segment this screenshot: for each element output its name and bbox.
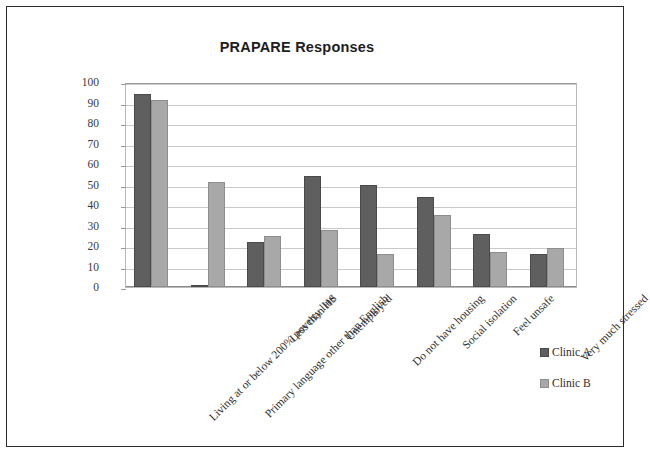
bar-group <box>530 84 564 287</box>
y-axis-tick-label: 50 <box>39 180 99 192</box>
bars-layer <box>126 84 576 287</box>
y-axis-tick-label: 90 <box>39 98 99 110</box>
y-axis-tick-label: 80 <box>39 118 99 130</box>
bar-group <box>360 84 394 287</box>
plot-area <box>125 83 577 288</box>
legend-swatch-icon <box>540 348 549 357</box>
bar-clinic-a <box>304 176 321 287</box>
bar-group <box>191 84 225 287</box>
bar-group <box>473 84 507 287</box>
bar-group <box>134 84 168 287</box>
bar-clinic-a <box>360 185 377 288</box>
y-axis-tick-label: 30 <box>39 221 99 233</box>
y-axis-tick-label: 60 <box>39 159 99 171</box>
legend-label: Clinic A <box>552 347 591 359</box>
y-axis-tick-label: 100 <box>39 77 99 89</box>
bar-clinic-b <box>547 248 564 287</box>
y-axis-tick-label: 40 <box>39 200 99 212</box>
bar-group <box>247 84 281 287</box>
x-axis-category-label: Unemployed <box>343 292 393 342</box>
bar-clinic-a <box>247 242 264 287</box>
bar-clinic-b <box>434 215 451 287</box>
legend-swatch-icon <box>540 379 549 388</box>
bar-clinic-b <box>490 252 507 287</box>
x-axis-category-labels: Living at or below 200% poverty linePrim… <box>7 288 625 428</box>
chart-figure-frame: PRAPARE Responses 1009080706050403020100… <box>6 6 624 447</box>
x-axis-category-label: Less than HS <box>287 292 339 344</box>
bar-clinic-a <box>417 197 434 287</box>
bar-clinic-b <box>151 100 168 287</box>
bar-clinic-b <box>208 182 225 287</box>
bar-clinic-b <box>321 230 338 287</box>
y-axis-tick-label: 20 <box>39 241 99 253</box>
bar-clinic-b <box>264 236 281 287</box>
legend-item: Clinic A <box>540 347 620 359</box>
y-axis-tick-label: 10 <box>39 262 99 274</box>
bar-clinic-a <box>530 254 547 287</box>
legend-label: Clinic B <box>552 378 591 390</box>
legend-item: Clinic B <box>540 378 620 390</box>
bar-clinic-a <box>191 285 208 287</box>
bar-clinic-a <box>134 94 151 287</box>
bar-clinic-a <box>473 234 490 287</box>
chart-legend: Clinic AClinic B <box>540 347 620 408</box>
y-axis-tick-label: 70 <box>39 139 99 151</box>
bar-clinic-b <box>377 254 394 287</box>
bar-group <box>304 84 338 287</box>
chart-title: PRAPARE Responses <box>7 39 587 55</box>
bar-group <box>417 84 451 287</box>
